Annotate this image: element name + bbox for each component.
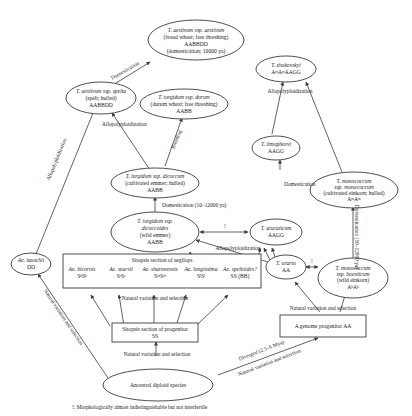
svg-text:Ae. tauschii: Ae. tauschii bbox=[17, 257, 45, 263]
svg-text:T. turgidum ssp.: T. turgidum ssp. bbox=[137, 218, 173, 224]
svg-text:AA: AA bbox=[282, 267, 290, 273]
svg-text:DD: DD bbox=[27, 264, 35, 270]
svg-text:(wild emmer): (wild emmer) bbox=[140, 232, 171, 239]
svg-text:Domestication (10–12000 ya): Domestication (10–12000 ya) bbox=[162, 202, 227, 209]
svg-text:Ae. searsii: Ae. searsii bbox=[108, 266, 133, 272]
footnote: !: Morphologically almost indistinguisha… bbox=[72, 404, 208, 410]
svg-text:Natural variation and selectio: Natural variation and selection bbox=[290, 305, 357, 311]
node-urartu: T. urartu AA bbox=[266, 255, 306, 279]
svg-text:Ae. sharonensis: Ae. sharonensis bbox=[141, 266, 177, 272]
svg-text:(durum wheat; free threshing): (durum wheat; free threshing) bbox=[151, 101, 218, 108]
svg-text:AABBDD: AABBDD bbox=[184, 41, 208, 47]
svg-text:(domestication; 10000 ya): (domestication; 10000 ya) bbox=[167, 48, 226, 55]
svg-text:AABB: AABB bbox=[176, 108, 192, 114]
svg-text:SᵇSᵇ: SᵇSᵇ bbox=[77, 273, 87, 279]
svg-text:Allopolyploidization: Allopolyploidization bbox=[216, 245, 261, 251]
node-durum: T. turgidum ssp. durum (durum wheat; fre… bbox=[140, 89, 228, 119]
svg-text:T. zhukovskyi: T. zhukovskyi bbox=[271, 62, 301, 68]
node-dicoccoides: T. turgidum ssp. dicoccoides (wild emmer… bbox=[111, 212, 199, 252]
svg-text:T. araraticum: T. araraticum bbox=[261, 225, 292, 231]
svg-text:!: ! bbox=[224, 223, 226, 229]
node-spelta: T. aestivum ssp. spelta (spelt; hulled) … bbox=[66, 82, 136, 114]
node-aestivum: T. aestivum ssp. aestivum (bread wheat; … bbox=[148, 20, 244, 60]
svg-text:!: ! bbox=[311, 258, 313, 264]
node-sitopsis-aegilops: Sitopsis section of aegilops Ae. bicorni… bbox=[63, 254, 261, 288]
svg-text:(wild einkorn): (wild einkorn) bbox=[337, 277, 369, 284]
svg-text:AABB: AABB bbox=[147, 239, 163, 245]
node-tauschii: Ae. tauschii DD bbox=[11, 253, 51, 275]
svg-text:T. urartu: T. urartu bbox=[276, 260, 296, 266]
svg-text:AAGG: AAGG bbox=[268, 148, 284, 154]
node-boeoticum: T. monococcum ssp. boeoticum (wild einko… bbox=[318, 258, 388, 298]
svg-text:dicoccoides: dicoccoides bbox=[142, 225, 168, 231]
node-a-progenitor: A genome progenitor AA bbox=[280, 315, 366, 337]
svg-text:T. aestivum ssp. spelta: T. aestivum ssp. spelta bbox=[76, 88, 126, 94]
wheat-evolution-diagram: T. aestivum ssp. aestivum (bread wheat; … bbox=[0, 0, 412, 416]
svg-text:Domestication (10–12000 ya): Domestication (10–12000 ya) bbox=[353, 205, 360, 270]
svg-text:Sitopsis section of progenitor: Sitopsis section of progenitor bbox=[122, 326, 188, 332]
svg-text:Sitopsis section of aegilops: Sitopsis section of aegilops bbox=[131, 257, 192, 263]
svg-text:(cultivated emmer; hulled): (cultivated emmer; hulled) bbox=[125, 180, 185, 187]
svg-text:SˢSˢ: SˢSˢ bbox=[117, 273, 126, 279]
svg-text:A genome progenitor AA: A genome progenitor AA bbox=[295, 323, 352, 329]
svg-text:SˡSˡ: SˡSˡ bbox=[197, 273, 205, 279]
svg-text:AAGG: AAGG bbox=[268, 232, 284, 238]
svg-text:Domestication: Domestication bbox=[284, 181, 316, 187]
svg-text:T. timopheevi: T. timopheevi bbox=[261, 141, 291, 147]
svg-text:Allopolyploidization: Allopolyploidization bbox=[45, 137, 68, 181]
svg-text:Natural variation and selectio: Natural variation and selection bbox=[43, 288, 85, 347]
node-zhukovskyi: T. zhukovskyi AᵐAᵐAAGG bbox=[256, 56, 316, 82]
svg-text:Natural variation and selectio: Natural variation and selection bbox=[124, 351, 191, 357]
svg-text:Allopolyploidization: Allopolyploidization bbox=[268, 88, 313, 94]
svg-text:AABB: AABB bbox=[147, 187, 163, 193]
svg-text:T. turgidum ssp. durum: T. turgidum ssp. durum bbox=[158, 94, 210, 100]
svg-text:T. aestivum ssp. aestivum: T. aestivum ssp. aestivum bbox=[168, 27, 225, 33]
svg-text:SˢʰSˢʰ: SˢʰSˢʰ bbox=[154, 273, 166, 279]
svg-text:Ae. longissima: Ae. longissima bbox=[184, 266, 218, 272]
svg-text:SS (BB): SS (BB) bbox=[231, 273, 250, 280]
svg-text:AABBDD: AABBDD bbox=[89, 102, 113, 108]
svg-text:(spelt; hulled): (spelt; hulled) bbox=[85, 95, 116, 102]
svg-text:Breeding: Breeding bbox=[170, 129, 183, 150]
node-monococcum: T. monococcum ssp. monococcum (cultivate… bbox=[310, 172, 398, 208]
svg-text:Allopolyploidization: Allopolyploidization bbox=[102, 121, 147, 127]
svg-text:AᵐAᵐAAGG: AᵐAᵐAAGG bbox=[271, 69, 301, 75]
node-dicoccum: T. turgidum ssp. dicoccum (cultivated em… bbox=[111, 168, 199, 198]
node-araraticum: T. araraticum AAGG bbox=[250, 219, 302, 245]
node-timopheevi: T. timopheevi AAGG bbox=[252, 136, 300, 160]
svg-text:SS: SS bbox=[152, 333, 158, 339]
svg-text:AᵐAᵐ: AᵐAᵐ bbox=[347, 196, 361, 202]
svg-text:AᵇAᵇ: AᵇAᵇ bbox=[347, 284, 359, 290]
svg-text:Natural variation and selectio: Natural variation and selection bbox=[122, 295, 189, 301]
svg-text:Ae. bicornis: Ae. bicornis bbox=[67, 266, 95, 272]
svg-text:Ancestral diploid species: Ancestral diploid species bbox=[130, 382, 186, 388]
svg-text:T. turgidum ssp. dicoccum: T. turgidum ssp. dicoccum bbox=[126, 173, 185, 179]
svg-text:(bread wheat; free threshing): (bread wheat; free threshing) bbox=[164, 34, 229, 41]
node-ancestral: Ancestral diploid species bbox=[103, 369, 213, 401]
node-sitopsis-progenitor: Sitopsis section of progenitor SS bbox=[112, 323, 198, 342]
svg-text:Ae. speltoides?: Ae. speltoides? bbox=[222, 266, 257, 272]
